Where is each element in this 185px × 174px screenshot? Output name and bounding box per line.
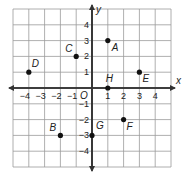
point-f: F (121, 117, 134, 132)
point-dot (137, 70, 142, 75)
x-tick-label: −1 (67, 91, 77, 101)
point-label: D (32, 58, 39, 69)
point-label: A (111, 42, 119, 53)
point-dot (26, 70, 31, 75)
y-tick-label: −2 (79, 115, 89, 125)
point-dot (105, 38, 110, 43)
point-label: E (142, 73, 149, 84)
y-tick-label: 1 (84, 67, 89, 77)
y-tick-label: 2 (84, 51, 89, 61)
y-tick-label: −3 (79, 130, 89, 140)
point-a: A (105, 38, 119, 53)
axes (9, 5, 175, 171)
x-tick-label: −4 (20, 91, 30, 101)
point-label: B (49, 122, 56, 133)
point-label: G (96, 120, 104, 131)
point-dot (58, 133, 63, 138)
y-tick-label: −4 (79, 146, 89, 156)
x-tick-label: 3 (137, 91, 142, 101)
point-dot (74, 54, 79, 59)
point-e: E (137, 70, 150, 85)
y-tick-label: 4 (84, 20, 89, 30)
x-tick-label: −2 (51, 91, 61, 101)
point-dot (89, 133, 94, 138)
x-tick-label: −3 (35, 91, 45, 101)
point-label: H (106, 73, 114, 84)
point-label: F (127, 121, 134, 132)
origin-label: O (80, 90, 88, 101)
point-label: C (65, 43, 73, 54)
x-tick-label: 2 (121, 91, 126, 101)
y-tick-label: 3 (84, 36, 89, 46)
point-dot (121, 117, 126, 122)
x-axis-label: x (175, 75, 182, 86)
x-tick-label: 1 (105, 91, 110, 101)
point-dot (105, 85, 110, 90)
x-tick-label: 4 (153, 91, 158, 101)
coordinate-plane: −4−3−2−112344321−1−2−3−4 ABCDEFGH x y O (0, 0, 185, 174)
y-axis-label: y (95, 4, 102, 15)
